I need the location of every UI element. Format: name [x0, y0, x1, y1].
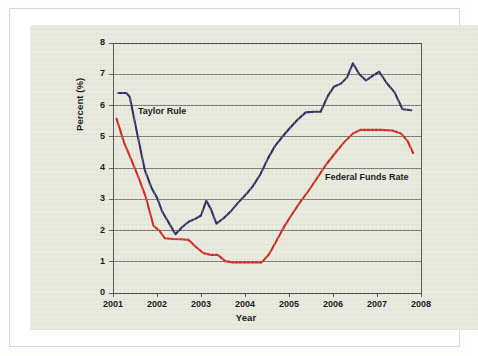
y-tick-label-0: 0 — [91, 287, 105, 297]
x-tick-label-2005: 2005 — [269, 299, 309, 309]
x-tick-label-2003: 2003 — [181, 299, 221, 309]
x-tick-label-2006: 2006 — [313, 299, 353, 309]
y-tick-label-8: 8 — [91, 37, 105, 47]
y-tick-label-4: 4 — [91, 162, 105, 172]
x-tick-label-2007: 2007 — [357, 299, 397, 309]
x-tick-label-2002: 2002 — [137, 299, 177, 309]
x-axis-title: Year — [236, 312, 256, 323]
series-label-federal-funds-rate: Federal Funds Rate — [325, 172, 409, 182]
y-tick-label-1: 1 — [91, 256, 105, 266]
y-tick-label-5: 5 — [91, 131, 105, 141]
y-tick-label-3: 3 — [91, 193, 105, 203]
series-line-federal-funds-rate — [117, 119, 414, 263]
y-tick-label-7: 7 — [91, 68, 105, 78]
y-tick-label-6: 6 — [91, 100, 105, 110]
series-line-taylor-rule — [118, 63, 411, 234]
x-tick-label-2004: 2004 — [225, 299, 265, 309]
y-tick-label-2: 2 — [91, 225, 105, 235]
series-label-taylor-rule: Taylor Rule — [138, 106, 186, 116]
x-tick-label-2001: 2001 — [93, 299, 133, 309]
y-axis-title: Percent (%) — [74, 78, 85, 131]
x-tick-label-2008: 2008 — [401, 299, 441, 309]
